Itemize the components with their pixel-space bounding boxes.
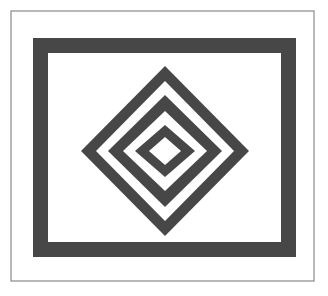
diamond-pattern-figure (0, 0, 328, 296)
artboard (0, 0, 328, 296)
